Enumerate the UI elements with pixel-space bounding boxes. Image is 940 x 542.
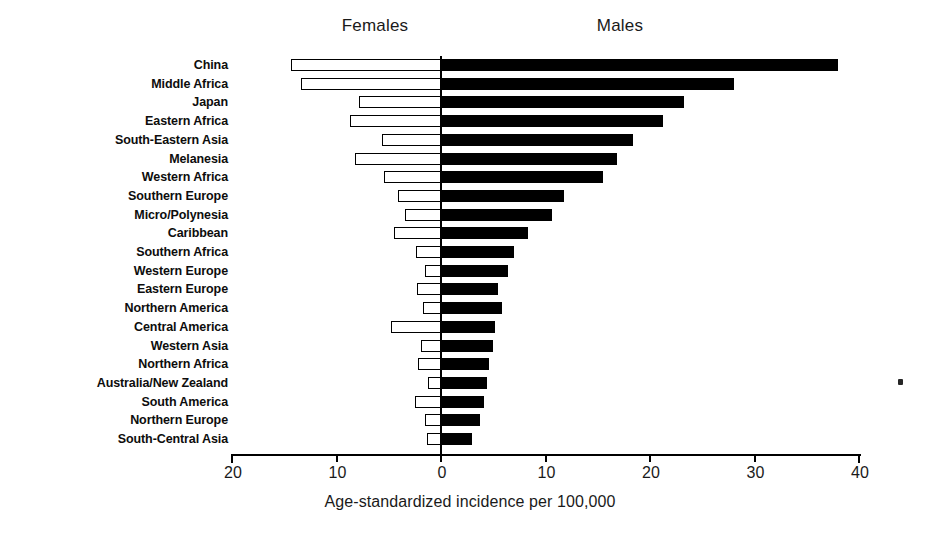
- bar-female: [418, 358, 441, 370]
- x-axis-tick: [858, 454, 860, 463]
- bar-female: [394, 227, 441, 239]
- bar-male: [441, 321, 495, 333]
- category-label: South America: [0, 395, 228, 409]
- bar-female: [425, 265, 441, 277]
- chart-row: Japan: [0, 94, 940, 113]
- chart-row: Melanesia: [0, 151, 940, 170]
- x-axis-tick-label: 20: [621, 464, 681, 482]
- bar-female: [423, 302, 441, 314]
- category-label: Southern Africa: [0, 245, 228, 259]
- bar-male: [441, 302, 502, 314]
- bar-female: [359, 96, 441, 108]
- category-label: Japan: [0, 95, 228, 109]
- x-axis-tick-label: 10: [517, 464, 577, 482]
- bar-female: [416, 246, 441, 258]
- x-axis-tick: [649, 454, 651, 462]
- category-label: Melanesia: [0, 152, 228, 166]
- bar-male: [441, 190, 564, 202]
- bar-male: [441, 414, 480, 426]
- chart-row: Southern Africa: [0, 244, 940, 263]
- bar-male: [441, 246, 514, 258]
- bar-female: [382, 134, 441, 146]
- bar-female: [291, 59, 441, 71]
- bar-female: [427, 433, 441, 445]
- bar-male: [441, 227, 528, 239]
- chart-row: Northern Africa: [0, 356, 940, 375]
- x-axis-tick: [336, 454, 338, 462]
- chart-row: South-Eastern Asia: [0, 132, 940, 151]
- bar-female: [417, 283, 441, 295]
- chart-row: China: [0, 57, 940, 76]
- bar-male: [441, 265, 508, 277]
- x-axis-title: Age-standardized incidence per 100,000: [0, 493, 940, 511]
- chart-row: Western Africa: [0, 169, 940, 188]
- bar-male: [441, 358, 489, 370]
- bar-male: [441, 377, 487, 389]
- bar-male: [441, 283, 498, 295]
- chart-row: Central America: [0, 319, 940, 338]
- chart-row: Northern Europe: [0, 412, 940, 431]
- category-label: Northern America: [0, 301, 228, 315]
- x-axis-tick-label: 40: [830, 464, 890, 482]
- bar-male: [441, 115, 663, 127]
- zero-axis-line: [440, 56, 442, 455]
- category-label: Southern Europe: [0, 189, 228, 203]
- x-axis-tick-label: 0: [412, 464, 472, 482]
- category-label: Western Europe: [0, 264, 228, 278]
- x-axis-tick: [754, 454, 756, 462]
- bar-female: [355, 153, 441, 165]
- bar-female: [425, 414, 441, 426]
- category-label: Western Africa: [0, 170, 228, 184]
- x-axis-tick: [545, 454, 547, 462]
- chart-row: Eastern Europe: [0, 281, 940, 300]
- chart-row: Western Asia: [0, 338, 940, 357]
- category-label: South-Central Asia: [0, 432, 228, 446]
- category-label: Eastern Europe: [0, 282, 228, 296]
- bar-male: [441, 396, 484, 408]
- chart-figure: Females Males ChinaMiddle AfricaJapanEas…: [0, 0, 940, 542]
- x-axis-tick-label: 30: [726, 464, 786, 482]
- category-label: Central America: [0, 320, 228, 334]
- chart-row: Western Europe: [0, 263, 940, 282]
- bar-male: [441, 340, 493, 352]
- chart-row: Eastern Africa: [0, 113, 940, 132]
- bar-female: [421, 340, 441, 352]
- category-label: Northern Europe: [0, 413, 228, 427]
- bar-female: [391, 321, 441, 333]
- bar-female: [384, 171, 441, 183]
- bar-female: [350, 115, 441, 127]
- category-label: Australia/New Zealand: [0, 376, 228, 390]
- bar-female: [415, 396, 441, 408]
- category-label: China: [0, 58, 228, 72]
- bar-male: [441, 209, 552, 221]
- chart-row: Northern America: [0, 300, 940, 319]
- chart-row: Caribbean: [0, 225, 940, 244]
- chart-row: South-Central Asia: [0, 431, 940, 450]
- x-axis-line: [233, 454, 861, 456]
- category-label: Caribbean: [0, 226, 228, 240]
- category-label: Micro/Polynesia: [0, 208, 228, 222]
- bar-male: [441, 153, 617, 165]
- chart-row: Middle Africa: [0, 76, 940, 95]
- x-axis-tick-label: 20: [203, 464, 263, 482]
- scan-artifact-speck: [898, 379, 903, 385]
- bar-male: [441, 59, 838, 71]
- bar-male: [441, 78, 734, 90]
- bar-male: [441, 134, 633, 146]
- category-label: Middle Africa: [0, 77, 228, 91]
- chart-row: Southern Europe: [0, 188, 940, 207]
- bar-female: [398, 190, 441, 202]
- chart-row: Australia/New Zealand: [0, 375, 940, 394]
- x-axis-tick-label: 10: [308, 464, 368, 482]
- category-label: Northern Africa: [0, 357, 228, 371]
- bar-male: [441, 96, 684, 108]
- bar-female: [301, 78, 441, 90]
- bar-female: [405, 209, 441, 221]
- category-label: Eastern Africa: [0, 114, 228, 128]
- chart-row: Micro/Polynesia: [0, 207, 940, 226]
- bar-male: [441, 433, 472, 445]
- plot-area: ChinaMiddle AfricaJapanEastern AfricaSou…: [0, 0, 940, 542]
- category-label: Western Asia: [0, 339, 228, 353]
- x-axis-tick: [440, 454, 442, 462]
- bar-male: [441, 171, 603, 183]
